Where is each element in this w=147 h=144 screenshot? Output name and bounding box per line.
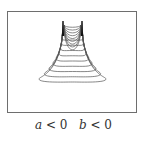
caption-b-var: b [79, 118, 87, 132]
caption-a-cond: < 0 [42, 118, 79, 132]
caption-b-cond: < 0 [87, 118, 112, 132]
contour-line [53, 21, 92, 66]
contour-lines [39, 21, 106, 82]
contour-line [49, 21, 96, 72]
contour-line [44, 21, 100, 77]
figure-caption: a < 0 b < 0 [0, 118, 147, 132]
